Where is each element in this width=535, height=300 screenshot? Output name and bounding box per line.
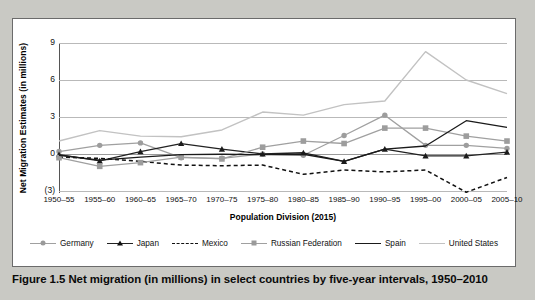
legend-symbol-triangle-icon [107, 238, 133, 248]
data-point [464, 143, 469, 148]
x-axis-tick: 1980–85 [288, 195, 319, 204]
x-axis-tick: 1965–70 [166, 195, 197, 204]
data-point [219, 156, 225, 162]
x-axis-tick: 2000–05 [451, 195, 482, 204]
data-point [341, 133, 346, 138]
data-point [301, 138, 307, 144]
gridline [59, 191, 507, 192]
plot-area [59, 43, 507, 191]
figure-caption: Figure 1.5 Net migration (in millions) i… [12, 273, 524, 285]
data-point [341, 141, 347, 147]
data-point [97, 143, 102, 148]
series-line [59, 157, 507, 192]
data-point [382, 125, 388, 131]
y-axis-tick-labels: 9630(3) [13, 19, 59, 266]
legend-symbol-none-icon [172, 238, 198, 248]
data-point [504, 138, 510, 144]
legend-label: Japan [137, 239, 159, 248]
y-axis-tick: 9 [50, 37, 55, 47]
x-axis-tick: 1970–75 [206, 195, 237, 204]
legend-item[interactable]: Spain [355, 238, 406, 248]
screenshot-root: Net Migration Estimates (in millions) 96… [0, 0, 535, 300]
x-axis-tick: 1985–90 [329, 195, 360, 204]
data-point [97, 164, 103, 170]
legend-symbol-square-icon [241, 238, 267, 248]
legend-label: Russian Federation [271, 239, 342, 248]
legend-label: United States [449, 239, 498, 248]
x-axis-tick: 1960–65 [125, 195, 156, 204]
x-axis-tick: 1955–60 [84, 195, 115, 204]
legend-item[interactable]: Japan [107, 238, 159, 248]
legend-symbol-none-icon [419, 238, 445, 248]
legend-label: Mexico [202, 239, 228, 248]
legend-label: Germany [60, 239, 94, 248]
legend-item[interactable]: Russian Federation [241, 238, 342, 248]
legend-symbol-circle-icon [30, 238, 56, 248]
legend-item[interactable]: Mexico [172, 238, 228, 248]
data-point [423, 125, 429, 131]
data-point [138, 160, 144, 166]
series-line [59, 52, 507, 141]
data-point [382, 112, 387, 117]
y-axis-tick: (3) [45, 185, 55, 195]
x-axis-tick: 1995–00 [410, 195, 441, 204]
legend-symbol-none-icon [355, 238, 381, 248]
data-point [463, 133, 469, 139]
x-axis-tick: 1975–80 [247, 195, 278, 204]
x-axis-tick: 2005–10 [491, 195, 522, 204]
x-axis-title: Population Division (2015) [59, 212, 507, 222]
legend-item[interactable]: Germany [30, 238, 94, 248]
legend-item[interactable]: United States [419, 238, 498, 248]
chart-panel: Net Migration Estimates (in millions) 96… [12, 18, 516, 267]
data-point [260, 144, 266, 150]
data-point [138, 140, 143, 145]
x-axis-tick-labels: 1950–551955–601960–651965–701970–751975–… [59, 195, 507, 209]
x-axis-tick: 1950–55 [43, 195, 74, 204]
y-axis-tick: 0 [50, 148, 55, 158]
legend-label: Spain [385, 239, 406, 248]
y-axis-tick: 6 [50, 74, 55, 84]
x-axis-tick: 1990–95 [369, 195, 400, 204]
chart-legend: GermanyJapanMexicoRussian FederationSpai… [13, 233, 515, 253]
series-lines [59, 43, 507, 191]
y-axis-tick: 3 [50, 111, 55, 121]
